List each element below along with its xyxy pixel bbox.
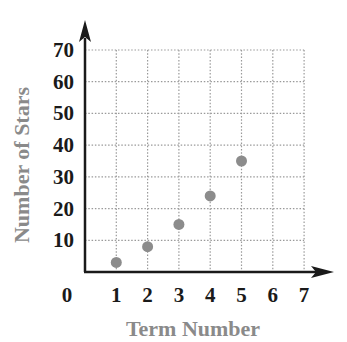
y-tick-label: 40 <box>53 133 74 157</box>
data-point <box>142 241 153 252</box>
x-tick-label: 4 <box>205 283 216 307</box>
x-tick-label: 3 <box>174 283 185 307</box>
x-tick-label: 7 <box>299 283 310 307</box>
data-point <box>111 257 122 268</box>
y-tick-label: 10 <box>53 228 74 252</box>
x-tick-labels: 01234567 <box>62 283 310 307</box>
data-point <box>205 190 216 201</box>
y-axis-label: Number of Stars <box>9 87 34 243</box>
grid-lines <box>85 50 304 272</box>
y-tick-label: 60 <box>53 70 74 94</box>
axes <box>79 20 334 278</box>
y-tick-labels: 10203040506070 <box>53 38 74 252</box>
scatter-chart: 10203040506070 01234567 Term Number Numb… <box>0 0 347 342</box>
y-tick-label: 70 <box>53 38 74 62</box>
y-tick-label: 30 <box>53 165 74 189</box>
y-tick-label: 50 <box>53 101 74 125</box>
x-tick-label: 6 <box>268 283 279 307</box>
y-tick-label: 20 <box>53 197 74 221</box>
x-tick-label: 0 <box>62 283 73 307</box>
x-axis-label: Term Number <box>126 316 260 341</box>
x-tick-label: 5 <box>236 283 247 307</box>
x-tick-label: 1 <box>111 283 122 307</box>
data-point <box>173 219 184 230</box>
data-point <box>236 156 247 167</box>
x-tick-label: 2 <box>142 283 153 307</box>
